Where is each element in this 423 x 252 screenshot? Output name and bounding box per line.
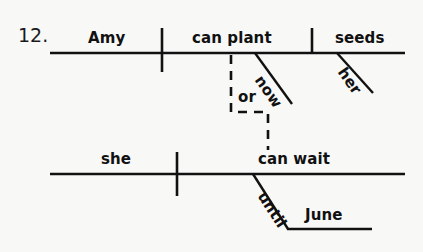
exercise-number: 12. [18,26,48,45]
sentence-diagram-canvas: 12. Amy can plant seeds now her or she c… [0,0,423,252]
word-conjunction-or: or [238,90,256,105]
word-subject-amy: Amy [88,31,125,46]
word-direct-object-seeds: seeds [335,31,384,46]
word-prep-object-june: June [305,208,343,223]
word-verb-can-plant: can plant [192,31,272,46]
word-verb-can-wait: can wait [258,152,330,167]
word-subject-she: she [101,152,131,167]
